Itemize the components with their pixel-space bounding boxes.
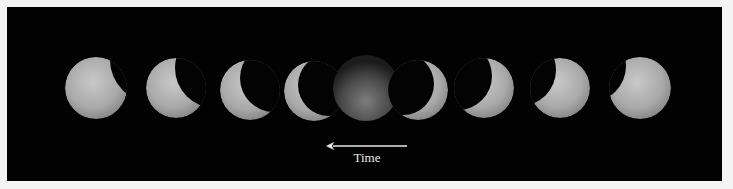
time-label: Time bbox=[340, 150, 394, 166]
